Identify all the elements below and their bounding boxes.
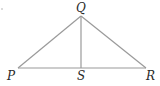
label-p: P	[6, 69, 16, 83]
label-q: Q	[76, 1, 86, 15]
segment-qr	[81, 16, 146, 68]
label-s: S	[77, 69, 85, 83]
segment-pq	[18, 16, 81, 68]
stray-mark	[1, 8, 3, 10]
triangle-diagram: Q P S R	[0, 0, 160, 86]
label-r: R	[145, 69, 155, 83]
